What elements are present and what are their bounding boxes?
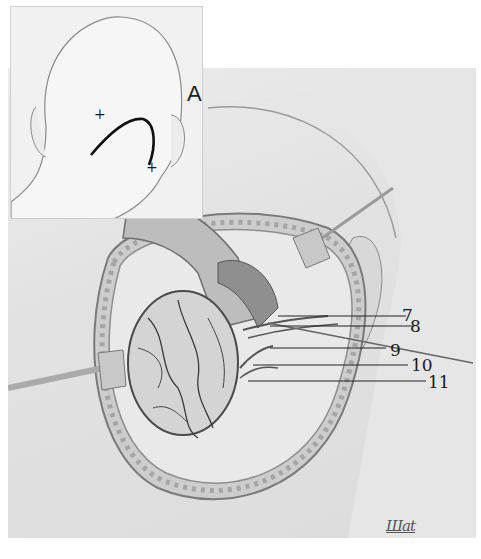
artist-signature: Шat (386, 517, 415, 535)
callout-11: 11 (428, 374, 450, 391)
marker-mastoid: + (146, 160, 158, 174)
marker-inion: + (94, 107, 106, 121)
inset-figure-a: + + A (10, 6, 203, 219)
head-incision-sketch (11, 7, 203, 219)
cropped-caption (28, 550, 458, 558)
inset-label-a: A (187, 83, 202, 105)
callout-9: 9 (390, 342, 401, 359)
callout-8: 8 (410, 318, 421, 335)
